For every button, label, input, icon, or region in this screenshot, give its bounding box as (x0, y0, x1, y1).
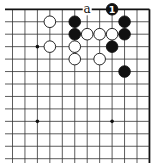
white-stone-icon (69, 41, 81, 53)
black-stone-icon (119, 28, 131, 40)
star-point-icon (110, 120, 114, 124)
black-stone (119, 16, 131, 28)
white-stone (44, 41, 56, 53)
board-labels: a (83, 2, 92, 16)
white-stone-icon (44, 41, 56, 53)
go-board: a 1 (0, 0, 155, 163)
white-stone-icon (94, 53, 106, 65)
black-stone (119, 28, 131, 40)
star-point-icon (36, 45, 40, 49)
white-stone (81, 28, 93, 40)
black-stone-icon (69, 28, 81, 40)
white-stone (69, 53, 81, 65)
black-stone-icon (119, 66, 131, 78)
black-stone (119, 66, 131, 78)
black-stone-icon (69, 16, 81, 28)
move-number: 1 (109, 4, 116, 15)
white-stone-icon (94, 28, 106, 40)
white-stone (106, 28, 118, 40)
black-stone-icon (119, 16, 131, 28)
black-stone-icon (106, 41, 118, 53)
star-point-icon (36, 120, 40, 124)
white-stone (94, 28, 106, 40)
black-stone (106, 41, 118, 53)
white-stone-icon (81, 28, 93, 40)
black-stone (69, 28, 81, 40)
point-label-a: a (84, 2, 91, 16)
white-stone (94, 53, 106, 65)
white-stone (69, 41, 81, 53)
white-stone (44, 16, 56, 28)
white-stone-icon (44, 16, 56, 28)
black-stone: 1 (106, 4, 118, 16)
white-stone-icon (69, 53, 81, 65)
black-stone (69, 16, 81, 28)
white-stone-icon (106, 28, 118, 40)
